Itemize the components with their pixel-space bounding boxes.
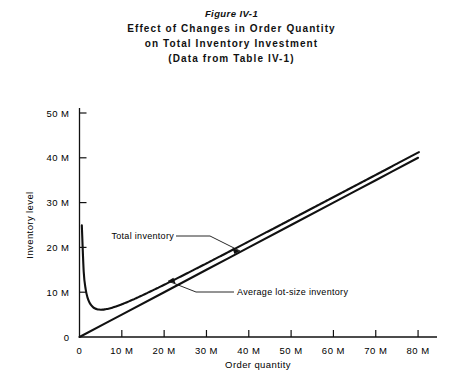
x-tick-label: 50 M bbox=[280, 345, 303, 356]
x-tick-label: 40 M bbox=[237, 345, 260, 356]
y-tick-label: 10 M bbox=[46, 287, 69, 298]
y-tick-label: 20 M bbox=[46, 242, 69, 253]
y-tick-label: 50 M bbox=[46, 108, 69, 119]
y-axis-tick-labels: 010 M20 M30 M40 M50 M bbox=[46, 108, 69, 343]
chart-canvas: 010 M20 M30 M40 M50 M 010 M20 M30 M40 M5… bbox=[0, 0, 463, 380]
x-tick-label: 80 M bbox=[407, 345, 430, 356]
x-tick-label: 10 M bbox=[110, 345, 133, 356]
y-tick-label: 30 M bbox=[46, 197, 69, 208]
x-tick-label: 60 M bbox=[322, 345, 345, 356]
annotation-total-inventory: Total inventory bbox=[111, 231, 174, 241]
y-axis-label: Inventory level bbox=[24, 191, 35, 258]
annotation-average-lot-size: Average lot-size inventory bbox=[237, 287, 348, 297]
series-average-lot-size-inventory bbox=[80, 158, 419, 337]
data-series bbox=[80, 152, 419, 337]
x-axis-label: Order quantity bbox=[225, 359, 291, 370]
x-tick-label: 20 M bbox=[153, 345, 176, 356]
x-axis-ticks bbox=[122, 330, 418, 337]
x-tick-label: 0 bbox=[77, 345, 83, 356]
x-axis-tick-labels: 010 M20 M30 M40 M50 M60 M70 M80 M bbox=[77, 345, 430, 356]
axis-lines bbox=[79, 108, 437, 338]
x-tick-label: 30 M bbox=[195, 345, 218, 356]
x-tick-label: 70 M bbox=[364, 345, 387, 356]
y-tick-label: 40 M bbox=[46, 152, 69, 163]
y-tick-label: 0 bbox=[64, 332, 70, 343]
